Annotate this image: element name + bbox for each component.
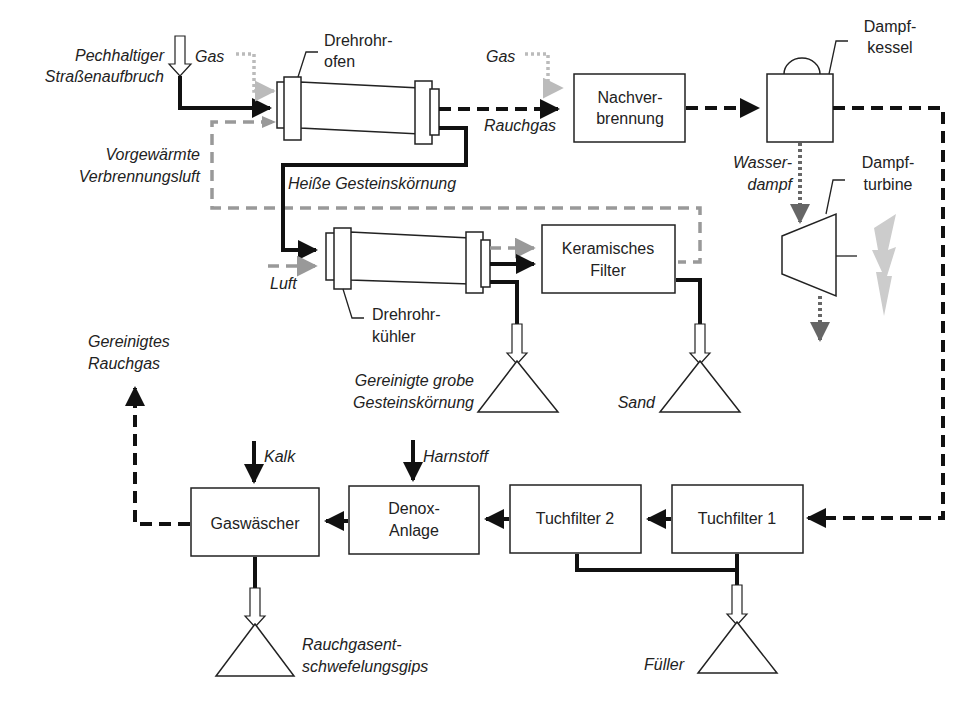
ceramic-filter-box bbox=[542, 225, 675, 293]
preheated-air-label-1: Vorgewärmte bbox=[105, 146, 200, 163]
ceramic-filter-label-1: Keramisches bbox=[562, 240, 654, 257]
rotary-cooler-label-1: Drehrohr- bbox=[372, 306, 440, 323]
afterburner-label-2: brennung bbox=[596, 110, 664, 127]
sand-line bbox=[676, 280, 700, 324]
denox-box bbox=[349, 486, 479, 554]
input-material-label-1: Pechhaltiger bbox=[75, 47, 165, 64]
coarse-aggregate-label-1: Gereinigte grobe bbox=[355, 372, 474, 389]
steam-boiler-label-1: Dampf- bbox=[864, 18, 916, 35]
ceramic-filter-label-2: Filter bbox=[590, 262, 626, 279]
flue-gas-label: Rauchgas bbox=[484, 117, 556, 134]
sand-arrow bbox=[690, 324, 710, 364]
steam-label-2: dampf bbox=[748, 176, 794, 193]
scrubber-label: Gaswäscher bbox=[211, 515, 301, 532]
filler-label: Füller bbox=[644, 656, 685, 673]
baghouse-2-label: Tuchfilter 2 bbox=[536, 510, 615, 527]
denox-label-1: Denox- bbox=[388, 500, 440, 517]
gas-oven-line bbox=[236, 54, 274, 91]
preheated-air-label-2: Verbrennungsluft bbox=[79, 168, 201, 185]
urea-label: Harnstoff bbox=[423, 448, 489, 465]
gypsum-label-1: Rauchgasent- bbox=[302, 636, 402, 653]
rotary-cooler-leader bbox=[343, 289, 364, 318]
rotary-kiln-label-2: ofen bbox=[324, 53, 355, 70]
steam-label-1: Wasser- bbox=[733, 154, 792, 171]
gypsum-pile bbox=[216, 624, 294, 676]
steam-turbine-label-1: Dampf- bbox=[862, 154, 914, 171]
input-material-label-2: Straßenaufbruch bbox=[45, 68, 164, 85]
afterburner-label-1: Nachver- bbox=[598, 89, 663, 106]
sand-label: Sand bbox=[618, 394, 656, 411]
steam-turbine bbox=[782, 214, 836, 296]
afterburner-box bbox=[574, 74, 685, 142]
process-flow-diagram: Pechhaltiger Straßenaufbruch Gas Vorgewä… bbox=[0, 0, 966, 701]
coarse-aggregate-label-2: Gesteinskörnung bbox=[353, 394, 474, 411]
rotary-kiln-leader bbox=[298, 52, 318, 77]
rotary-cooler bbox=[326, 228, 490, 293]
filler-arrow bbox=[727, 585, 747, 625]
electricity-bolt-icon bbox=[872, 214, 896, 316]
gas-nachverbrennung-line bbox=[525, 54, 562, 88]
hot-aggregate-label: Heiße Gesteinskörnung bbox=[288, 175, 456, 192]
gypsum-arrow bbox=[245, 588, 265, 627]
clean-flue-gas-label-1: Gereinigtes bbox=[88, 333, 170, 350]
preheated-air-arrowhead bbox=[262, 116, 276, 128]
coarse-aggregate-arrow bbox=[507, 324, 527, 364]
air-label: Luft bbox=[270, 275, 297, 292]
sand-pile bbox=[660, 361, 740, 412]
filler-collector-line bbox=[577, 554, 737, 570]
filler-pile bbox=[698, 622, 777, 673]
input-material-arrow bbox=[169, 36, 191, 76]
rotary-kiln bbox=[277, 77, 439, 144]
coarse-aggregate-pile bbox=[478, 361, 558, 412]
steam-boiler-leader bbox=[829, 41, 848, 74]
steam-turbine-leader bbox=[826, 180, 845, 214]
clean-flue-gas-line bbox=[135, 388, 190, 524]
gypsum-label-2: schwefelungsgips bbox=[302, 658, 428, 675]
baghouse-1-label: Tuchfilter 1 bbox=[698, 510, 777, 527]
gas-oven-label: Gas bbox=[195, 48, 224, 65]
steam-boiler-label-2: kessel bbox=[867, 39, 912, 56]
steam-turbine-label-2: turbine bbox=[864, 176, 913, 193]
rotary-cooler-label-2: kühler bbox=[372, 328, 416, 345]
rotary-kiln-label-1: Drehrohr- bbox=[324, 32, 392, 49]
denox-label-2: Anlage bbox=[389, 522, 439, 539]
gas-nachverbrennung-label: Gas bbox=[486, 48, 515, 65]
steam-boiler bbox=[767, 58, 833, 142]
material-feed-line bbox=[180, 76, 270, 108]
clean-flue-gas-label-2: Rauchgas bbox=[88, 355, 160, 372]
coarse-aggregate-line bbox=[490, 282, 517, 324]
lime-label: Kalk bbox=[264, 448, 296, 465]
